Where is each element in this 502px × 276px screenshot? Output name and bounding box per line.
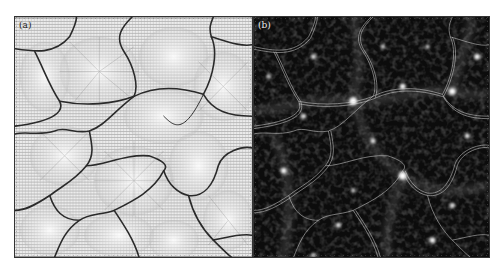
panel-a-vector-field: (a) <box>14 16 253 258</box>
panel-a-cell-pattern <box>15 17 252 257</box>
panel-b-label: (b) <box>258 20 271 30</box>
panel-b-filament-map <box>254 17 489 257</box>
panel-b-density-field: (b) <box>253 16 490 258</box>
panel-a-label: (a) <box>19 20 31 30</box>
